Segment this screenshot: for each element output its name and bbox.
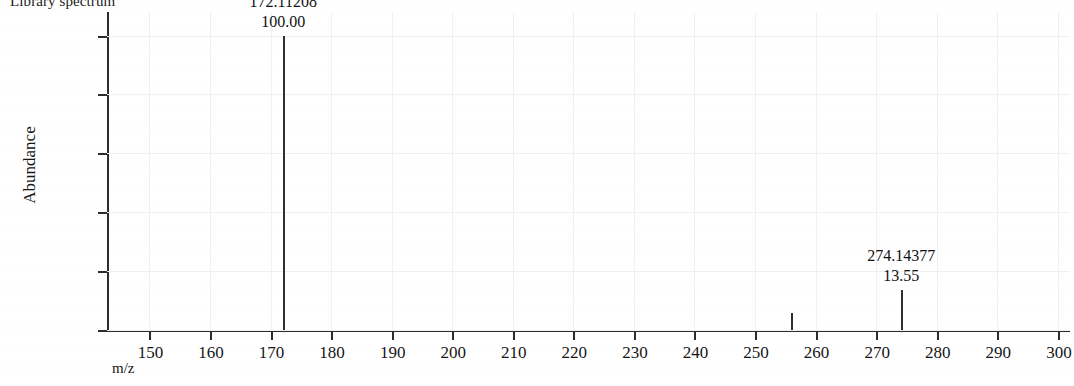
- gridline-vertical: [694, 12, 695, 330]
- gridline-vertical: [271, 12, 272, 330]
- gridline-horizontal: [107, 36, 1070, 37]
- x-axis-tick-label: 280: [908, 343, 968, 363]
- x-axis-tick: [997, 332, 999, 340]
- y-axis-tick: [98, 36, 107, 38]
- x-axis-tick: [210, 332, 212, 340]
- x-axis-tick-label: 210: [484, 343, 544, 363]
- figure-title: Library spectrum: [10, 0, 115, 10]
- y-axis-tick: [98, 153, 107, 155]
- x-axis-tick: [331, 332, 333, 340]
- y-axis-tick: [98, 212, 107, 214]
- x-axis-tick: [452, 332, 454, 340]
- x-axis-tick-label: 150: [120, 343, 180, 363]
- gridline-vertical: [149, 12, 150, 330]
- gridline-vertical: [513, 12, 514, 330]
- x-axis-tick: [271, 332, 273, 340]
- y-axis-tick: [98, 271, 107, 273]
- x-axis-tick: [816, 332, 818, 340]
- x-axis-tick: [876, 332, 878, 340]
- peak-mz-value: 172.11208: [198, 0, 368, 12]
- x-axis-tick: [513, 332, 515, 340]
- y-axis-tick: [98, 330, 107, 332]
- x-axis-tick: [634, 332, 636, 340]
- x-axis-tick-label: 300: [1029, 343, 1074, 363]
- peak-line: [791, 313, 793, 330]
- x-axis-tick: [1058, 332, 1060, 340]
- gridline-vertical: [392, 12, 393, 330]
- gridline-vertical: [997, 12, 998, 330]
- x-axis-tick-label: 180: [302, 343, 362, 363]
- x-axis-tick-label: 290: [968, 343, 1028, 363]
- peak-line: [283, 36, 285, 330]
- peak-mz-value: 274.14377: [816, 246, 986, 266]
- gridline-horizontal: [107, 94, 1070, 95]
- mass-spectrum-figure: Library spectrum Abundance m/z 020406080…: [0, 0, 1074, 386]
- gridline-horizontal: [107, 153, 1070, 154]
- gridline-vertical: [452, 12, 453, 330]
- gridline-vertical: [573, 12, 574, 330]
- x-axis-tick-label: 200: [423, 343, 483, 363]
- x-axis-tick: [573, 332, 575, 340]
- x-axis-tick-label: 270: [847, 343, 907, 363]
- gridline-vertical: [1058, 12, 1059, 330]
- y-axis-title: Abundance: [20, 105, 40, 225]
- x-axis-tick-label: 250: [726, 343, 786, 363]
- x-axis-tick-label: 190: [363, 343, 423, 363]
- peak-intensity-value: 100.00: [198, 12, 368, 32]
- peak-intensity-value: 13.55: [816, 266, 986, 286]
- x-axis-tick: [392, 332, 394, 340]
- peak-annotation: 274.1437713.55: [816, 246, 986, 286]
- x-axis-tick-label: 160: [181, 343, 241, 363]
- x-axis-tick-label: 230: [605, 343, 665, 363]
- gridline-horizontal: [107, 330, 1070, 331]
- y-axis-tick: [98, 94, 107, 96]
- x-axis-tick: [694, 332, 696, 340]
- x-axis-tick-label: 240: [665, 343, 725, 363]
- x-axis-tick-label: 170: [242, 343, 302, 363]
- y-axis-line: [107, 12, 109, 330]
- x-axis-tick-label: 260: [787, 343, 847, 363]
- plot-area: 020406080100 150160170180190200210220230…: [107, 12, 1070, 330]
- x-axis-tick: [149, 332, 151, 340]
- peak-annotation: 172.11208100.00: [198, 0, 368, 32]
- gridline-horizontal: [107, 212, 1070, 213]
- x-axis-tick-label: 220: [544, 343, 604, 363]
- x-axis-tick: [755, 332, 757, 340]
- gridline-vertical: [634, 12, 635, 330]
- x-axis-tick: [937, 332, 939, 340]
- gridline-vertical: [331, 12, 332, 330]
- peak-line: [901, 290, 903, 330]
- gridline-vertical: [210, 12, 211, 330]
- gridline-vertical: [755, 12, 756, 330]
